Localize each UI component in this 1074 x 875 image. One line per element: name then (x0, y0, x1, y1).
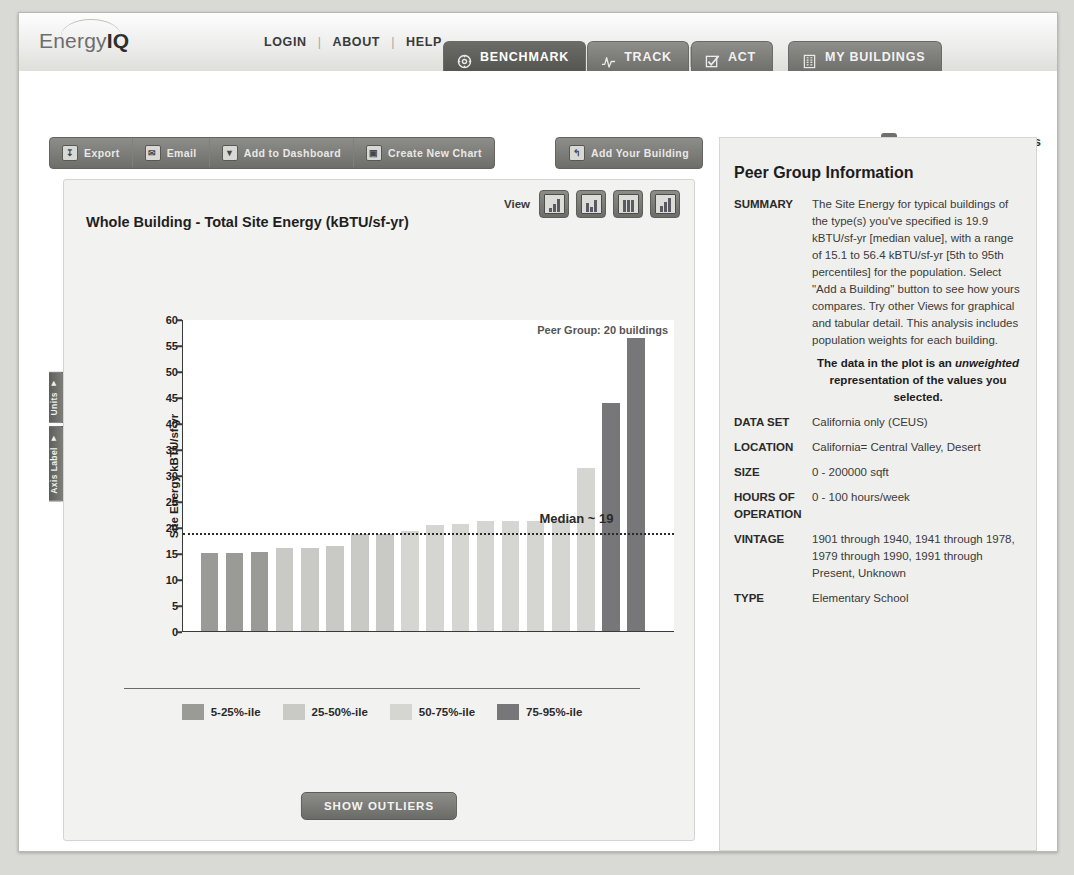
y-tick: 40 (152, 418, 178, 430)
building-icon (802, 50, 817, 65)
x-tick-mark (234, 631, 236, 632)
view-switcher: View (504, 190, 680, 218)
create-new-chart-label: Create New Chart (388, 147, 482, 159)
chart-side-tabs: Units ▾ Axis Label ▾ (49, 371, 64, 505)
info-row-value: 0 - 200000 sqft (812, 464, 1024, 481)
chart-bar[interactable] (477, 521, 495, 631)
chart-bar[interactable] (577, 468, 595, 631)
info-row-value: California= Central Valley, Desert (812, 439, 1024, 456)
x-tick-mark (586, 631, 588, 632)
info-row-emphasis: The data in the plot is an unweighted re… (812, 355, 1024, 406)
tab-act[interactable]: ACT (691, 41, 773, 72)
bar-series (183, 320, 674, 631)
tab-benchmark[interactable]: BENCHMARK (443, 41, 586, 72)
email-label: Email (167, 147, 197, 159)
show-outliers-button[interactable]: SHOW OUTLIERS (301, 792, 457, 820)
y-tick: 0 (152, 626, 178, 638)
chart-legend: 5-25%-ile25-50%-ile50-75%-ile75-95%-ile (124, 704, 640, 720)
y-tick: 35 (152, 444, 178, 456)
add-dashboard-icon: ▼ (222, 145, 238, 161)
nav-help[interactable]: HELP (406, 35, 442, 49)
x-tick: 10 (429, 631, 441, 632)
chart-bar[interactable] (627, 338, 645, 631)
info-row: SIZE0 - 200000 sqft (720, 460, 1036, 485)
create-new-chart-button[interactable]: ▣ Create New Chart (354, 139, 494, 167)
chart-bar[interactable] (502, 521, 520, 631)
x-tick: 6 (332, 631, 338, 632)
y-tick: 15 (152, 548, 178, 560)
chart-bar[interactable] (401, 531, 419, 631)
chart-bar[interactable] (301, 548, 319, 631)
chart-bar[interactable] (326, 546, 344, 631)
tab-track[interactable]: TRACK (587, 41, 689, 72)
table-view-icon[interactable] (613, 190, 643, 218)
target-icon (457, 50, 472, 65)
nav-login[interactable]: LOGIN (264, 35, 307, 49)
view-label: View (504, 198, 530, 210)
nav-about[interactable]: ABOUT (333, 35, 380, 49)
info-row: TYPEElementary School (720, 586, 1036, 611)
x-tick: 16 (580, 631, 592, 632)
scatter-view-icon[interactable] (576, 190, 606, 218)
info-row-value: 1901 through 1940, 1941 through 1978, 19… (812, 531, 1024, 582)
legend-item: 50-75%-ile (390, 704, 475, 720)
info-row: LOCATIONCalifornia= Central Valley, Dese… (720, 435, 1036, 460)
tab-my-buildings[interactable]: MY BUILDINGS (788, 41, 942, 72)
legend-item: 25-50%-ile (283, 704, 368, 720)
peer-group-info-title: Peer Group Information (720, 138, 1036, 192)
logo-swoosh-icon (61, 19, 121, 36)
y-tick: 5 (152, 600, 178, 612)
legend-swatch (283, 704, 305, 720)
chart-plot: Site Energy kBTU/sf-yr 05101520253035404… (136, 320, 674, 632)
nav-sep-1: | (318, 35, 322, 49)
info-row: HOURS OF OPERATION0 - 100 hours/week (720, 485, 1036, 527)
y-tick: 30 (152, 470, 178, 482)
email-icon: ✉ (145, 145, 161, 161)
chart-bar[interactable] (276, 548, 294, 631)
info-row-key: TYPE (734, 590, 812, 607)
bar-chart-view-icon[interactable] (539, 190, 569, 218)
info-row-key: SUMMARY (734, 196, 812, 406)
peer-group-info-rows: SUMMARYThe Site Energy for typical build… (720, 192, 1036, 611)
x-tick-mark (285, 631, 287, 632)
add-to-dashboard-label: Add to Dashboard (244, 147, 341, 159)
add-your-building-label: Add Your Building (591, 147, 689, 159)
add-your-building-button[interactable]: ↰ Add Your Building (557, 139, 701, 167)
tab-act-label: ACT (728, 42, 756, 72)
line-chart-view-icon[interactable] (650, 190, 680, 218)
export-button[interactable]: ↧ Export (50, 139, 133, 167)
toolbar-button-group: ↧ Export ✉ Email ▼ Add to Dashboard ▣ Cr… (49, 137, 495, 169)
energyiq-app-window: EnergyIQ LOGIN | ABOUT | HELP BENCHMARK … (18, 12, 1058, 852)
peer-group-info-panel: Peer Group Information SUMMARYThe Site E… (719, 137, 1037, 851)
chart-bar[interactable] (452, 524, 470, 631)
chart-toolbar: ↧ Export ✉ Email ▼ Add to Dashboard ▣ Cr… (49, 137, 699, 167)
x-tick: 12 (479, 631, 491, 632)
chart-bar[interactable] (251, 552, 269, 631)
info-row-key: HOURS OF OPERATION (734, 489, 812, 523)
energyiq-logo[interactable]: EnergyIQ (39, 29, 129, 53)
chart-bar[interactable] (351, 534, 369, 631)
plot-area: Peer Group: 20 buildings Median ~ 19 246… (182, 320, 674, 632)
main-tabs: BENCHMARK TRACK ACT MY BUILDINGS (443, 41, 943, 71)
info-row: DATA SETCalifornia only (CEUS) (720, 410, 1036, 435)
y-tick: 45 (152, 392, 178, 404)
info-row: SUMMARYThe Site Energy for typical build… (720, 192, 1036, 410)
x-tick-mark (485, 631, 487, 632)
info-row-key: VINTAGE (734, 531, 812, 582)
chart-bar[interactable] (552, 520, 570, 631)
top-nav: LOGIN | ABOUT | HELP (262, 35, 444, 49)
x-tick-mark (435, 631, 437, 632)
chart-bar[interactable] (226, 553, 244, 631)
y-tick: 55 (152, 340, 178, 352)
add-building-icon: ↰ (569, 145, 585, 161)
chart-bar[interactable] (376, 534, 394, 631)
chart-bar[interactable] (527, 521, 545, 631)
x-tick: 4 (282, 631, 288, 632)
chart-bar[interactable] (201, 553, 219, 631)
x-tick: 18 (630, 631, 642, 632)
checkbox-icon (705, 50, 720, 65)
chart-bar[interactable] (426, 525, 444, 631)
add-to-dashboard-button[interactable]: ▼ Add to Dashboard (210, 139, 354, 167)
email-button[interactable]: ✉ Email (133, 139, 210, 167)
info-row-value: Elementary School (812, 590, 1024, 607)
